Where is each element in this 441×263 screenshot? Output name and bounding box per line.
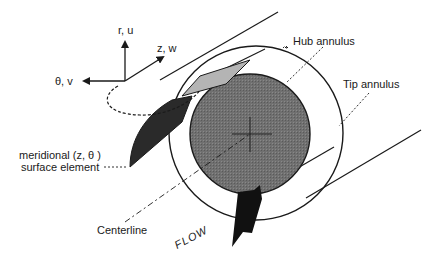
hub-annulus-label: Hub annulus — [293, 35, 355, 47]
hub-line — [286, 47, 323, 83]
hub-leader-diagonal — [285, 47, 286, 48]
hub-pointer — [287, 47, 288, 48]
tip-line — [339, 93, 369, 126]
meridional-label-line2: surface element — [21, 161, 99, 173]
surface-element-dark — [130, 96, 192, 167]
axis-r-label: r, u — [118, 24, 133, 36]
tip-annulus-label: Tip annulus — [343, 78, 399, 90]
axis-theta-label: θ, v — [55, 75, 73, 87]
axis-z-arrow — [125, 57, 163, 81]
meridional-label-line1: meridional (z, θ ) — [19, 149, 101, 161]
coordinate-axes — [84, 42, 163, 81]
centerline-label: Centerline — [97, 224, 147, 236]
annulus-diagram — [0, 0, 441, 263]
axis-z-label: z, w — [157, 42, 177, 54]
flow-arrow-icon — [232, 185, 262, 247]
